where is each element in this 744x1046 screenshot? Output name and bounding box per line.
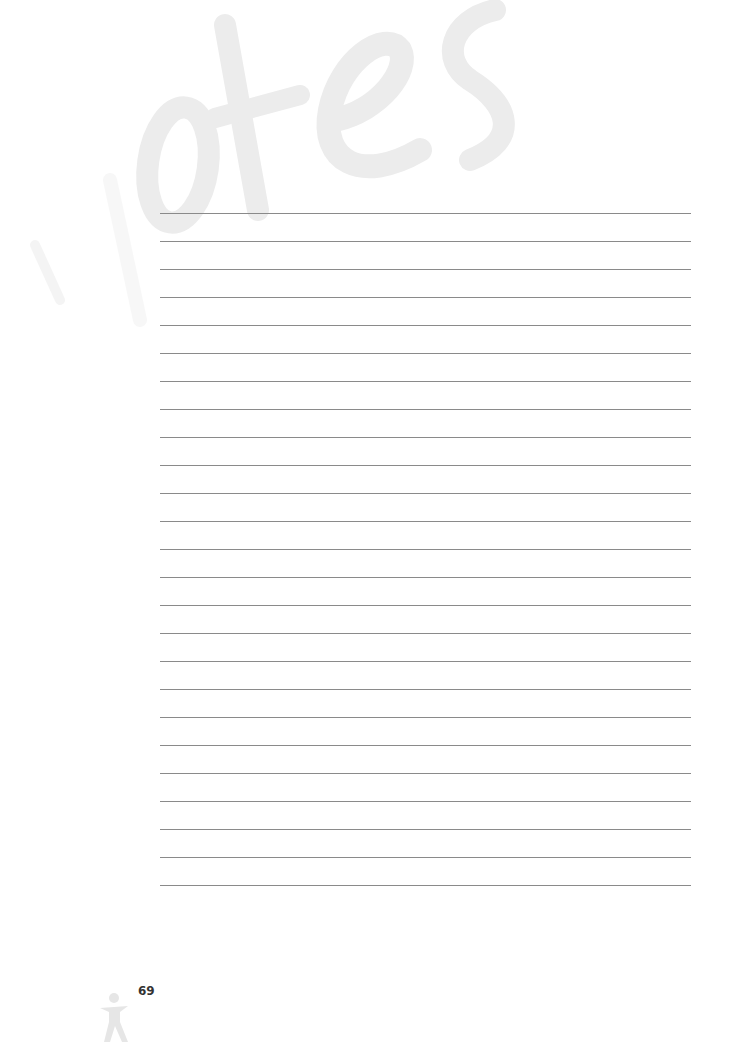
ruled-line [160,521,691,549]
ruled-line [160,241,691,269]
ruled-line [160,661,691,689]
ruled-line [160,213,691,241]
ruled-line [160,353,691,381]
ruled-line [160,717,691,745]
ruled-line [160,745,691,773]
ruled-line [160,577,691,605]
ruled-line [160,465,691,493]
ruled-line [160,689,691,717]
page-number: 69 [138,984,155,998]
ruled-line [160,829,691,857]
ruled-line [160,633,691,661]
ruled-line [160,437,691,465]
ruled-line [160,325,691,353]
ruled-line [160,885,691,913]
ruled-line [160,493,691,521]
ruled-line [160,549,691,577]
ruled-line [160,801,691,829]
ruled-line [160,297,691,325]
ruled-lines [160,213,691,913]
person-figure-icon [98,988,142,1044]
ruled-line [160,381,691,409]
ruled-line [160,269,691,297]
ruled-line [160,605,691,633]
ruled-line [160,857,691,885]
ruled-line [160,409,691,437]
ruled-line [160,773,691,801]
